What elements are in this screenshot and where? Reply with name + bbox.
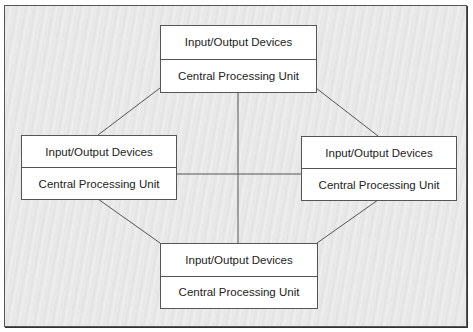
node-right: Input/Output Devices Central Processing … [301, 136, 457, 201]
io-devices-label: Input/Output Devices [302, 137, 456, 168]
edge-right-bottom [317, 200, 378, 243]
edge-top-left [98, 88, 160, 135]
io-devices-label: Input/Output Devices [22, 136, 176, 167]
cpu-label: Central Processing Unit [22, 167, 176, 199]
cpu-label: Central Processing Unit [161, 59, 316, 93]
node-left: Input/Output Devices Central Processing … [21, 135, 177, 200]
node-bottom: Input/Output Devices Central Processing … [160, 243, 318, 309]
cpu-label: Central Processing Unit [161, 276, 317, 309]
io-devices-label: Input/Output Devices [161, 244, 317, 276]
cpu-label: Central Processing Unit [302, 168, 456, 200]
edge-left-bottom [98, 199, 160, 243]
edge-top-right [316, 88, 378, 136]
node-top: Input/Output Devices Central Processing … [160, 25, 317, 93]
io-devices-label: Input/Output Devices [161, 26, 316, 59]
